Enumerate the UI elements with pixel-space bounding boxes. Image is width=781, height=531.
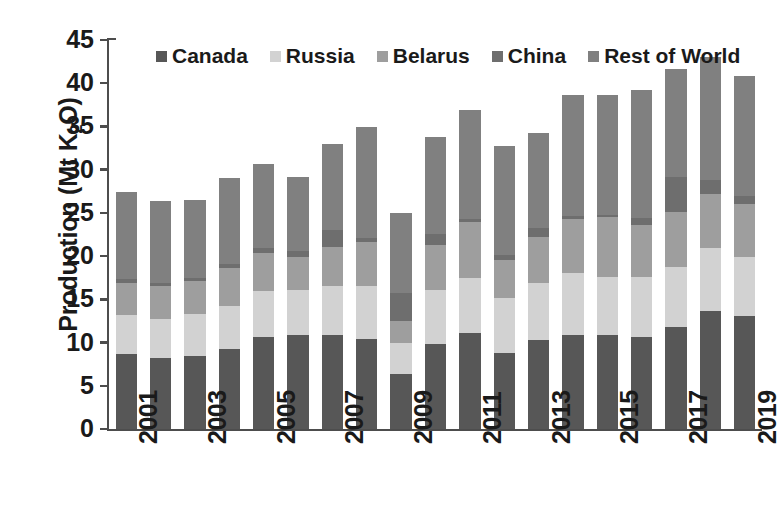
x-tick-label-2009: 2009	[409, 390, 438, 444]
bar-2008[interactable]	[356, 127, 377, 429]
bar-segment-belarus	[734, 204, 755, 257]
bar-2010[interactable]	[425, 137, 446, 429]
bar-segment-rest-of-world	[494, 146, 515, 255]
bar-segment-rest-of-world	[356, 127, 377, 238]
bar-segment-rest-of-world	[116, 192, 137, 279]
legend-item-rest-of-world[interactable]: Rest of World	[588, 44, 740, 68]
bar-group	[109, 40, 762, 429]
legend-item-belarus[interactable]: Belarus	[377, 44, 470, 68]
bar-segment-belarus	[597, 217, 618, 277]
bar-segment-china	[700, 180, 721, 194]
x-tick-label-2013: 2013	[547, 390, 576, 444]
bar-segment-belarus	[494, 260, 515, 299]
bar-segment-belarus	[150, 286, 171, 319]
bar-segment-russia	[219, 306, 240, 349]
bar-2016[interactable]	[631, 90, 652, 429]
legend-item-russia[interactable]: Russia	[270, 44, 355, 68]
legend-label: China	[508, 44, 566, 68]
bar-segment-russia	[287, 290, 308, 335]
bar-segment-china	[322, 230, 343, 246]
y-tick-mark	[100, 212, 109, 215]
y-tick-label: 5	[80, 370, 94, 400]
bar-segment-belarus	[631, 225, 652, 277]
bar-2017[interactable]	[665, 69, 686, 429]
bar-segment-belarus	[322, 247, 343, 287]
bar-2011[interactable]	[459, 110, 480, 429]
bar-2018[interactable]	[700, 57, 721, 429]
bar-segment-rest-of-world	[631, 90, 652, 218]
bar-2015[interactable]	[597, 95, 618, 430]
bar-2014[interactable]	[562, 95, 583, 430]
bar-segment-china	[390, 293, 411, 321]
bar-segment-belarus	[528, 237, 549, 283]
bar-segment-russia	[700, 248, 721, 311]
bar-segment-rest-of-world	[425, 137, 446, 234]
x-tick-label-2019: 2019	[753, 390, 781, 444]
legend-swatch-icon	[588, 51, 599, 62]
y-tick-mark	[100, 428, 109, 431]
bar-segment-rest-of-world	[184, 200, 205, 278]
bar-segment-rest-of-world	[665, 69, 686, 177]
y-tick-label: 10	[66, 327, 94, 357]
y-tick-mark	[100, 385, 109, 388]
x-tick-label-2011: 2011	[478, 392, 507, 444]
legend-item-china[interactable]: China	[492, 44, 566, 68]
bar-segment-russia	[494, 298, 515, 352]
bar-segment-russia	[665, 267, 686, 327]
bar-segment-rest-of-world	[390, 213, 411, 293]
x-tick-label-2001: 2001	[134, 390, 163, 444]
y-tick-label: 25	[66, 197, 94, 227]
y-tick-label: 45	[66, 24, 94, 54]
bar-segment-russia	[459, 278, 480, 333]
bar-segment-belarus	[390, 321, 411, 343]
bar-segment-belarus	[665, 212, 686, 267]
y-tick-label: 0	[80, 413, 94, 443]
bar-segment-russia	[322, 286, 343, 334]
y-tick-label: 40	[66, 67, 94, 97]
legend-item-canada[interactable]: Canada	[156, 44, 248, 68]
y-tick-label: 30	[66, 154, 94, 184]
bar-segment-belarus	[425, 245, 446, 290]
bar-2019[interactable]	[734, 76, 755, 429]
bar-segment-russia	[150, 319, 171, 358]
bar-segment-russia	[425, 290, 446, 344]
bar-segment-russia	[528, 283, 549, 340]
chart-legend: CanadaRussiaBelarusChinaRest of World	[156, 44, 740, 68]
bar-segment-rest-of-world	[219, 178, 240, 264]
plot-area: 051015202530354045	[107, 40, 762, 431]
x-tick-label-2007: 2007	[340, 390, 369, 444]
bar-segment-belarus	[356, 242, 377, 285]
bar-segment-russia	[184, 314, 205, 355]
bar-segment-rest-of-world	[322, 144, 343, 230]
bar-segment-russia	[356, 286, 377, 340]
bar-segment-belarus	[184, 281, 205, 314]
bar-segment-rest-of-world	[528, 133, 549, 227]
bar-segment-russia	[253, 291, 274, 338]
bar-segment-russia	[734, 257, 755, 316]
y-tick-mark	[100, 341, 109, 344]
bar-segment-rest-of-world	[287, 177, 308, 250]
bar-segment-belarus	[287, 257, 308, 290]
legend-swatch-icon	[156, 51, 167, 62]
y-tick-label: 35	[66, 110, 94, 140]
bar-segment-belarus	[459, 222, 480, 278]
bar-segment-china	[631, 218, 652, 225]
x-tick-label-2015: 2015	[615, 390, 644, 444]
legend-swatch-icon	[270, 51, 281, 62]
bar-2013[interactable]	[528, 133, 549, 429]
bar-segment-rest-of-world	[253, 164, 274, 248]
y-tick-label: 15	[66, 283, 94, 313]
x-tick-label-2005: 2005	[272, 390, 301, 444]
bar-segment-rest-of-world	[700, 57, 721, 180]
legend-label: Rest of World	[604, 44, 740, 68]
bar-2007[interactable]	[322, 144, 343, 429]
bar-segment-china	[425, 234, 446, 245]
bar-2012[interactable]	[494, 146, 515, 429]
legend-label: Belarus	[393, 44, 470, 68]
y-tick-mark	[100, 125, 109, 128]
y-tick-mark	[100, 39, 109, 42]
bar-segment-russia	[390, 343, 411, 374]
bar-segment-china	[528, 228, 549, 238]
y-tick-label: 20	[66, 240, 94, 270]
